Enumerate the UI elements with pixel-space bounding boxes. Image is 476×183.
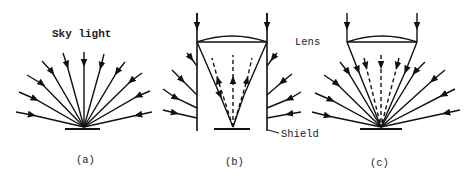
lens-c [347, 36, 417, 42]
caption-b: (b) [225, 156, 244, 168]
lens-b [197, 36, 267, 42]
shield-label: Shield [281, 128, 319, 140]
lens-label: Lens [295, 36, 320, 48]
caption-a: (a) [76, 154, 95, 166]
panel-b: Lens Shield (b) [163, 13, 320, 168]
caption-c: (c) [370, 157, 389, 169]
sky-light-lens-diagram: Sky light (a) [0, 0, 476, 183]
panel-c: (c) [312, 13, 460, 169]
blocked-rays-right [267, 53, 301, 118]
panel-a: Sky light (a) [16, 28, 152, 166]
shield-leader-line [268, 130, 279, 133]
sky-rays [16, 52, 152, 127]
sky-light-label: Sky light [52, 28, 111, 40]
blocked-rays-left [163, 53, 197, 118]
